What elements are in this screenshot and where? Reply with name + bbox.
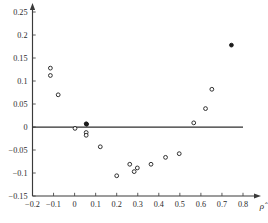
x-axis-tick-label: 0.5: [175, 200, 185, 209]
chart-canvas: −0.15−0.1−0.0500.050.10.150.20.25−0.2−0.…: [0, 0, 268, 223]
scatter-point: [230, 43, 234, 47]
x-axis-tick-label: 0.8: [238, 200, 248, 209]
x-axis-tick-label: 0.2: [112, 200, 122, 209]
scatter-point: [73, 126, 77, 130]
x-axis-tick-label: −0.2: [25, 200, 40, 209]
data-point-group: [48, 43, 233, 177]
x-axis-tick-label: 0.4: [154, 200, 164, 209]
scatter-point: [48, 66, 52, 70]
scatter-point: [149, 162, 153, 166]
scatter-point: [132, 170, 136, 174]
scatter-point: [98, 145, 102, 149]
y-axis-tick-label: −0.05: [9, 146, 28, 155]
x-axis-arrow-icon: [254, 193, 261, 198]
x-axis-tick-label: 0.1: [91, 200, 101, 209]
y-axis-tick-label: 0.2: [17, 31, 27, 40]
y-axis-tick-label: 0.25: [13, 8, 27, 17]
scatter-point: [128, 162, 132, 166]
scatter-point: [177, 152, 181, 156]
x-axis-tick-label: 0: [73, 200, 77, 209]
y-axis-arrow-icon: [30, 3, 35, 10]
scatter-point: [210, 87, 214, 91]
x-axis-tick-label: 0.3: [133, 200, 143, 209]
x-axis-tick-label: 0.7: [217, 200, 227, 209]
scatter-point: [56, 93, 60, 97]
y-axis-tick-label: 0.05: [13, 100, 27, 109]
scatter-point: [164, 155, 168, 159]
x-axis-tick-label: 0.6: [196, 200, 206, 209]
y-axis-tick-label: 0: [23, 123, 27, 132]
scatter-point: [204, 107, 208, 111]
scatter-point: [115, 174, 119, 178]
scatter-point: [135, 166, 139, 170]
scatter-point: [48, 74, 52, 78]
y-axis-tick-label: 0.15: [13, 54, 27, 63]
scatter-point: [192, 121, 196, 125]
x-axis-tick-label: −0.1: [46, 200, 61, 209]
y-axis-tick-label: 0.1: [17, 77, 27, 86]
scatter-point: [84, 133, 88, 137]
y-axis-tick-label: −0.1: [13, 169, 28, 178]
x-axis-label: ρ̂: [259, 201, 268, 211]
scatter-plot-figure: −0.15−0.1−0.0500.050.10.150.20.25−0.2−0.…: [0, 0, 268, 223]
scatter-point: [85, 122, 89, 126]
